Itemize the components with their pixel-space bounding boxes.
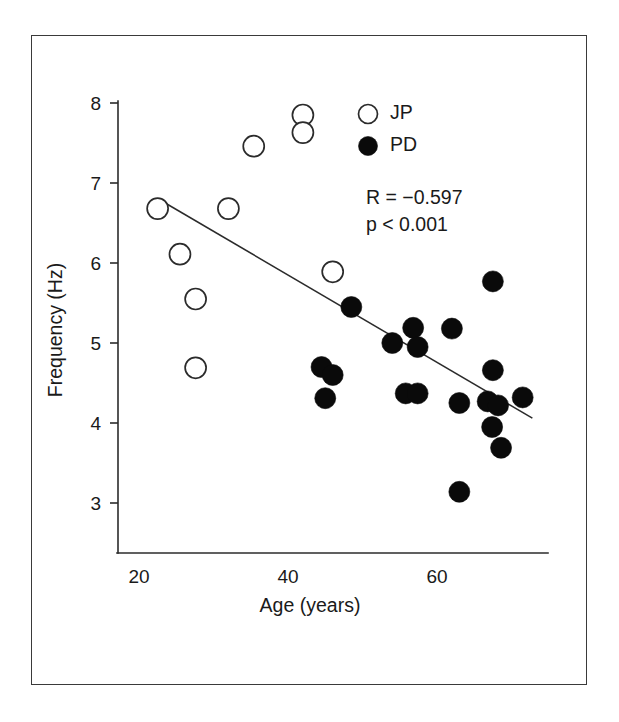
- legend: JP PD: [359, 101, 418, 155]
- data-point: [512, 387, 533, 408]
- x-axis: 20 40 60: [117, 553, 548, 587]
- data-point: [147, 198, 168, 219]
- data-point: [449, 481, 470, 502]
- legend-label-pd: PD: [390, 133, 417, 155]
- data-point: [407, 337, 428, 358]
- data-point: [315, 388, 336, 409]
- data-point: [488, 395, 509, 416]
- series-pd-points: [311, 271, 533, 502]
- p-value: p < 0.001: [366, 213, 448, 235]
- y-tick-label-4: 4: [90, 413, 101, 434]
- x-axis-title: Age (years): [260, 594, 361, 616]
- y-tick-label-5: 5: [90, 333, 101, 354]
- data-point: [441, 318, 462, 339]
- y-tick-label-3: 3: [90, 493, 101, 514]
- legend-marker-pd: [359, 137, 378, 156]
- data-point: [449, 393, 470, 414]
- data-point: [185, 289, 206, 310]
- figure-root: 8 7 6 5 4 3 20 40 60 Age (years) Frequen…: [0, 0, 619, 722]
- data-point: [341, 297, 362, 318]
- y-tick-label-8: 8: [90, 93, 101, 114]
- data-point: [482, 360, 503, 381]
- data-point: [169, 244, 190, 265]
- data-point: [243, 136, 264, 157]
- y-axis: 8 7 6 5 4 3: [90, 93, 118, 553]
- legend-marker-jp: [359, 105, 378, 124]
- x-tick-label-60: 60: [426, 566, 447, 587]
- data-point: [185, 357, 206, 378]
- scatter-plot: 8 7 6 5 4 3 20 40 60 Age (years) Frequen…: [0, 0, 619, 722]
- correlation-value: R = −0.597: [366, 186, 463, 208]
- data-point: [382, 333, 403, 354]
- statistics-annotation: R = −0.597 p < 0.001: [366, 186, 463, 235]
- data-point: [403, 317, 424, 338]
- data-point: [482, 271, 503, 292]
- data-point: [218, 198, 239, 219]
- y-tick-label-7: 7: [90, 173, 101, 194]
- data-point: [322, 261, 343, 282]
- data-point: [491, 437, 512, 458]
- data-point: [292, 122, 313, 143]
- series-jp-points: [147, 105, 343, 379]
- y-tick-label-6: 6: [90, 253, 101, 274]
- y-axis-title: Frequency (Hz): [44, 263, 66, 397]
- legend-label-jp: JP: [390, 101, 413, 123]
- data-point: [322, 365, 343, 386]
- data-point: [407, 383, 428, 404]
- x-tick-label-40: 40: [277, 566, 298, 587]
- x-tick-label-20: 20: [128, 566, 149, 587]
- data-point: [482, 417, 503, 438]
